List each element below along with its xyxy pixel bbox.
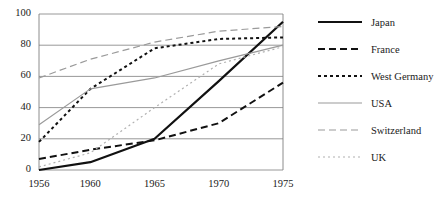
y-tick-label-0: 0 [1, 164, 31, 175]
legend-swatch-west-germany [318, 70, 362, 82]
legend-label-west-germany: West Germany [371, 71, 433, 82]
series-line-west-germany [39, 37, 283, 142]
legend-label-usa: USA [371, 98, 392, 109]
series-line-switzerland [39, 26, 283, 77]
legend-swatch-usa [318, 97, 362, 109]
legend-swatch-switzerland [318, 124, 362, 136]
legend-label-switzerland: Switzerland [371, 125, 421, 136]
x-tick-label-1970: 1970 [197, 179, 241, 190]
y-tick-label-100: 100 [1, 8, 31, 19]
x-tick-label-1975: 1975 [261, 179, 305, 190]
legend-item-japan[interactable]: Japan [318, 14, 395, 30]
legend-swatch-uk [318, 151, 362, 163]
y-tick-label-80: 80 [1, 39, 31, 50]
x-tick-label-1965: 1965 [133, 179, 177, 190]
legend-item-switzerland[interactable]: Switzerland [318, 122, 421, 138]
chart-legend: JapanFranceWest GermanyUSASwitzerlandUK [318, 14, 435, 174]
legend-item-west-germany[interactable]: West Germany [318, 68, 433, 84]
legend-label-france: France [371, 44, 400, 55]
legend-label-japan: Japan [371, 17, 395, 28]
legend-label-uk: UK [371, 152, 386, 163]
y-tick-label-20: 20 [1, 133, 31, 144]
legend-item-france[interactable]: France [318, 41, 400, 57]
series-line-japan [39, 22, 283, 170]
legend-swatch-france [318, 43, 362, 55]
line-chart: 020406080100 19561960196519701975 JapanF… [0, 0, 435, 208]
x-tick-label-1960: 1960 [68, 179, 112, 190]
x-tick-label-1956: 1956 [17, 179, 61, 190]
legend-item-uk[interactable]: UK [318, 149, 386, 165]
series-line-usa [39, 45, 283, 125]
y-tick-label-40: 40 [1, 102, 31, 113]
legend-swatch-japan [318, 16, 362, 28]
series-line-france [39, 83, 283, 159]
y-tick-label-60: 60 [1, 70, 31, 81]
legend-item-usa[interactable]: USA [318, 95, 392, 111]
